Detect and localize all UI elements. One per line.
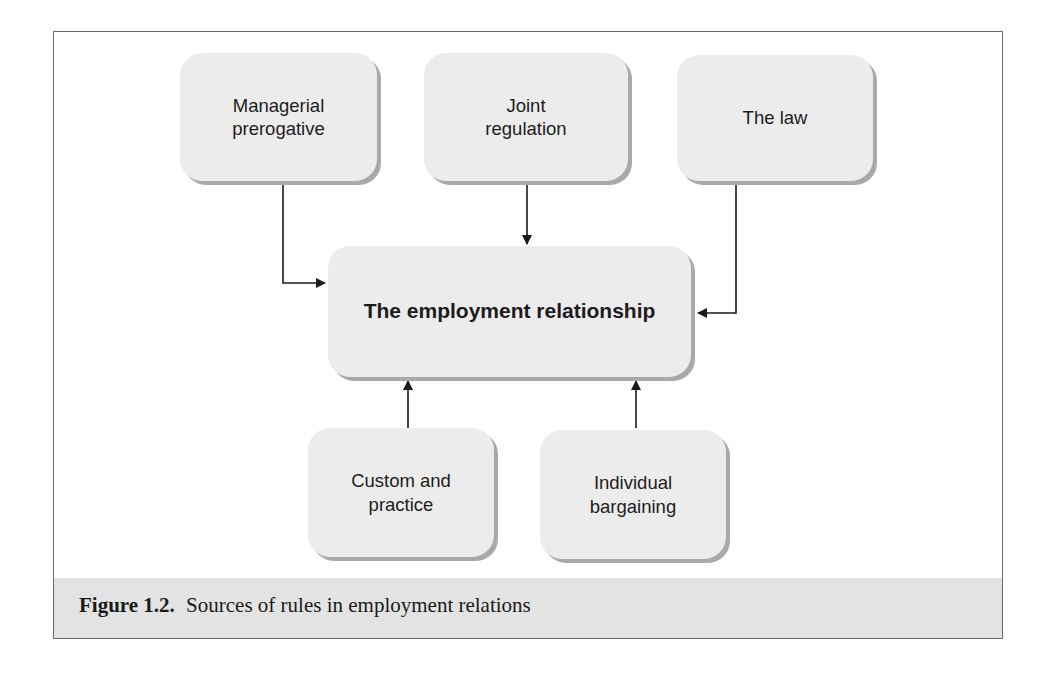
figure-title: Sources of rules in employment relations: [186, 593, 531, 617]
figure-label: Figure 1.2.: [79, 593, 175, 617]
node-label: regulation: [485, 117, 566, 140]
node-label: practice: [351, 493, 451, 516]
node-label: Custom and: [351, 469, 451, 492]
node-custom-and-practice: Custom and practice: [308, 428, 494, 557]
figure-caption: Figure 1.2. Sources of rules in employme…: [79, 593, 531, 618]
node-managerial-prerogative: Managerial prerogative: [180, 53, 377, 181]
node-individual-bargaining: Individual bargaining: [540, 430, 726, 559]
caption-band: Figure 1.2. Sources of rules in employme…: [54, 578, 1002, 638]
node-the-law: The law: [677, 55, 873, 181]
node-label: Individual: [590, 471, 676, 494]
node-label: Managerial: [232, 94, 325, 117]
node-label: Joint: [485, 94, 566, 117]
node-joint-regulation: Joint regulation: [424, 53, 628, 181]
node-label: The law: [743, 106, 808, 129]
node-label: bargaining: [590, 495, 676, 518]
node-label: The employment relationship: [364, 298, 656, 324]
node-employment-relationship: The employment relationship: [328, 246, 691, 377]
node-label: prerogative: [232, 117, 325, 140]
